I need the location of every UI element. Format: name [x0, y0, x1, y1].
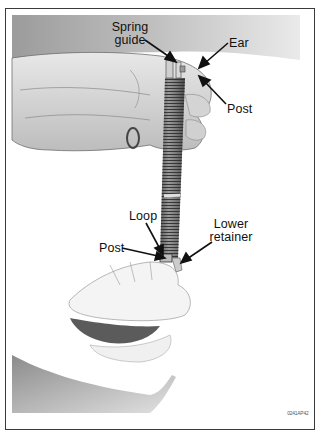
callout-post-lower: Post	[99, 242, 124, 255]
callout-spring-guide-line2: guide	[106, 34, 154, 47]
callout-loop: Loop	[129, 210, 157, 223]
callout-post-upper: Post	[227, 103, 252, 116]
callout-ear: Ear	[229, 37, 249, 50]
callout-lower-retainer: Lower retainer	[203, 218, 259, 244]
callout-lower-retainer-line2: retainer	[203, 231, 259, 244]
figure-code: 0241AP42	[287, 410, 308, 416]
callout-spring-guide: Spring guide	[106, 21, 154, 47]
